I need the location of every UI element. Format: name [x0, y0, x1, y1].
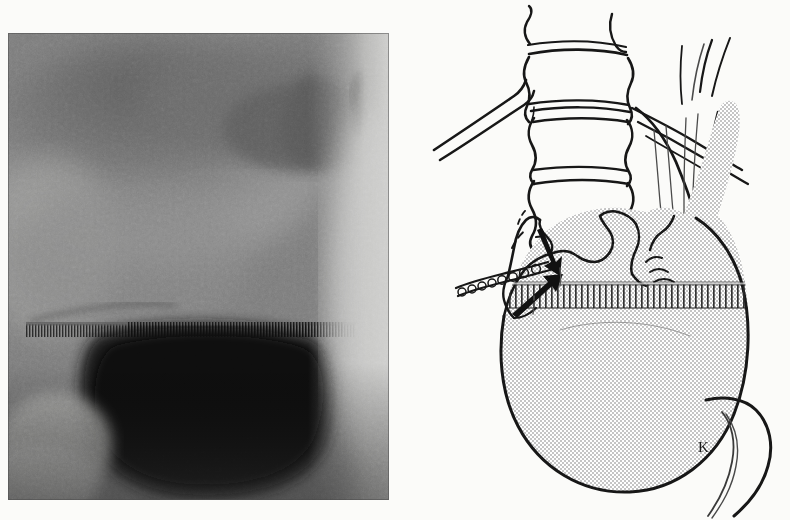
radiograph-image [8, 33, 389, 500]
signature: K. [698, 439, 713, 455]
rib-pair-left [434, 80, 534, 160]
diagram-panel: K. [400, 0, 790, 520]
signature-text: K. [698, 439, 713, 455]
radiograph-panel [8, 33, 389, 500]
figure-root: K. [0, 0, 790, 520]
